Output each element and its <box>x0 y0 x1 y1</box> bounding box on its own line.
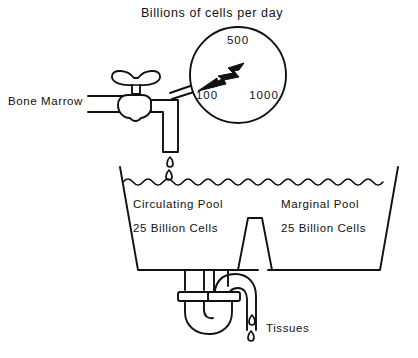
inflow-drips <box>166 157 173 180</box>
tank-divider <box>238 218 272 270</box>
circulating-pool-amount: 25 Billion Cells <box>133 222 218 234</box>
diagram-canvas: Billions of cells per day 500 100 1000 B… <box>0 0 418 358</box>
bone-marrow-label: Bone Marrow <box>8 95 83 107</box>
tank-left-wall <box>120 167 258 270</box>
trap-collar-right <box>208 292 240 301</box>
blood-cell-pool-diagram: Billions of cells per day 500 100 1000 B… <box>0 0 418 358</box>
flow-rate-gauge: 500 100 1000 <box>170 27 286 123</box>
tissue-drip-1 <box>249 315 255 325</box>
gauge-tick-right: 1000 <box>249 89 279 101</box>
trap-collar-left <box>178 292 210 301</box>
gauge-tick-top: 500 <box>227 34 249 46</box>
circulating-pool-name: Circulating Pool <box>133 198 223 210</box>
tissues-label: Tissues <box>266 322 309 334</box>
marginal-pool-amount: 25 Billion Cells <box>281 222 366 234</box>
outflow-drips <box>248 315 255 341</box>
drain-trap-assembly: Tissues <box>178 270 309 341</box>
marginal-pool-name: Marginal Pool <box>281 198 359 210</box>
faucet-handle-icon[interactable] <box>112 71 160 94</box>
cell-pool-tank: Circulating Pool 25 Billion Cells Margin… <box>120 167 398 270</box>
water-surface <box>123 179 383 185</box>
faucet-body <box>118 95 152 121</box>
bone-marrow-supply: Bone Marrow <box>8 71 178 180</box>
chart-title: Billions of cells per day <box>141 6 283 20</box>
tissue-drip-2 <box>248 331 254 341</box>
inflow-drip-1 <box>167 157 173 167</box>
gauge-stem-lower <box>172 92 194 99</box>
faucet-spout <box>151 100 178 152</box>
